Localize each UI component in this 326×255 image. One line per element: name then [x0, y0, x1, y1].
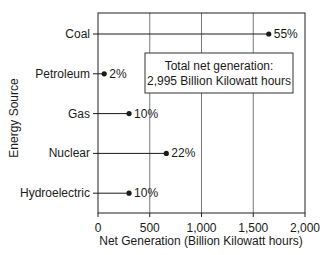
x-gridlines — [150, 13, 254, 213]
category-label: Petroleum — [35, 67, 90, 81]
percent-label: 10% — [134, 186, 158, 200]
x-axis-ticks: 05001,0001,5002,000 — [95, 213, 321, 235]
data-point — [164, 151, 169, 156]
data-point — [126, 111, 131, 116]
data-point — [102, 71, 107, 76]
x-tick-label: 2,000 — [290, 221, 320, 235]
percent-label: 22% — [171, 146, 195, 160]
annotation-line-2: 2,995 Billion Kilowatt hours — [147, 74, 291, 88]
category-label: Nuclear — [49, 146, 90, 160]
data-row: Hydroelectric10% — [20, 186, 158, 200]
data-row: Coal55% — [65, 27, 298, 41]
x-tick-label: 500 — [140, 221, 160, 235]
percent-label: 10% — [134, 107, 158, 121]
energy-dot-chart: Coal55%Petroleum2%Gas10%Nuclear22%Hydroe… — [0, 0, 326, 255]
category-label: Hydroelectric — [20, 186, 90, 200]
category-label: Gas — [68, 107, 90, 121]
percent-label: 2% — [109, 67, 127, 81]
data-point — [126, 191, 131, 196]
percent-label: 55% — [274, 27, 298, 41]
x-tick-label: 1,000 — [186, 221, 216, 235]
x-tick-label: 0 — [95, 221, 102, 235]
y-axis-label: Energy Source — [7, 78, 21, 158]
x-axis-label: Net Generation (Billion Kilowatt hours) — [99, 234, 302, 248]
data-row: Nuclear22% — [49, 146, 196, 160]
data-point — [266, 31, 271, 36]
data-row: Gas10% — [68, 107, 158, 121]
category-label: Coal — [65, 27, 90, 41]
data-row: Petroleum2% — [35, 67, 127, 81]
annotation-line-1: Total net generation: — [165, 59, 274, 73]
total-annotation: Total net generation: 2,995 Billion Kilo… — [145, 53, 293, 93]
x-tick-label: 1,500 — [238, 221, 268, 235]
